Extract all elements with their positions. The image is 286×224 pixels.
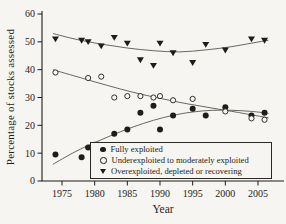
y-tick-label: 50: [25, 36, 35, 47]
data-point-fully-exploited: [52, 152, 58, 158]
fish-stocks-status-chart: 0102030405060197519801985199019952000200…: [0, 0, 286, 224]
x-tick-label: 1990: [150, 188, 170, 199]
data-point-overexploited: [52, 36, 59, 42]
filled-triangle-marker-icon: [100, 169, 106, 174]
plot-area: 0102030405060197519801985199019952000200…: [0, 0, 286, 224]
legend-label-fully-exploited: Fully exploited: [111, 145, 163, 154]
x-tick-label: 2000: [215, 188, 235, 199]
y-tick-label: 60: [25, 8, 35, 19]
x-tick-label: 1995: [183, 188, 203, 199]
data-point-overexploited: [248, 36, 255, 42]
legend-label-underexploited: Underexploited to moderately exploited: [112, 156, 249, 165]
x-tick-label: 2005: [248, 188, 268, 199]
data-point-overexploited: [111, 35, 118, 41]
data-point-overexploited: [98, 43, 105, 49]
x-tick-label: 1975: [52, 188, 72, 199]
data-point-underexploited: [86, 75, 91, 80]
legend-item-underexploited: Underexploited to moderately exploited: [100, 156, 271, 165]
legend-item-fully-exploited: Fully exploited: [100, 145, 271, 154]
data-point-underexploited: [125, 94, 130, 99]
data-point-fully-exploited: [124, 127, 130, 133]
data-point-fully-exploited: [157, 127, 163, 133]
data-point-underexploited: [151, 95, 156, 100]
data-point-overexploited: [124, 41, 131, 47]
data-point-fully-exploited: [111, 131, 117, 137]
data-point-underexploited: [99, 74, 104, 79]
data-point-fully-exploited: [170, 113, 176, 119]
data-point-underexploited: [170, 98, 175, 103]
legend-box: Fully exploited Underexploited to modera…: [90, 142, 272, 179]
data-point-overexploited: [202, 42, 209, 48]
y-axis-title: Percentage of stocks assessed: [4, 12, 18, 182]
data-point-underexploited: [138, 94, 143, 99]
y-tick-label: 0: [30, 175, 35, 186]
data-point-overexploited: [170, 50, 177, 56]
data-point-underexploited: [223, 109, 228, 114]
data-point-fully-exploited: [262, 110, 268, 116]
legend-item-overexploited: Overexploited, depleted or recovering: [100, 167, 271, 176]
y-tick-label: 10: [25, 148, 35, 159]
data-point-fully-exploited: [190, 106, 196, 112]
data-point-overexploited: [150, 63, 157, 69]
y-tick-label: 20: [25, 120, 35, 131]
data-point-underexploited: [262, 117, 267, 122]
y-tick-label: 30: [25, 92, 35, 103]
data-point-fully-exploited: [79, 154, 85, 160]
x-tick-label: 1980: [85, 188, 105, 199]
data-point-underexploited: [190, 96, 195, 101]
x-axis-title: Year: [42, 203, 284, 215]
data-point-overexploited: [137, 57, 144, 63]
data-point-overexploited: [222, 48, 229, 54]
x-tick-label: 1985: [117, 188, 137, 199]
filled-circle-marker-icon: [100, 147, 106, 153]
data-point-fully-exploited: [150, 103, 156, 109]
data-point-underexploited: [249, 116, 254, 121]
data-point-fully-exploited: [137, 110, 143, 116]
data-point-fully-exploited: [203, 113, 209, 119]
open-circle-marker-icon: [100, 157, 107, 164]
data-point-overexploited: [189, 60, 196, 66]
data-point-underexploited: [53, 70, 58, 75]
data-point-underexploited: [112, 95, 117, 100]
legend-label-overexploited: Overexploited, depleted or recovering: [111, 167, 242, 176]
data-point-underexploited: [157, 94, 162, 99]
data-point-overexploited: [156, 41, 163, 47]
y-tick-label: 40: [25, 64, 35, 75]
